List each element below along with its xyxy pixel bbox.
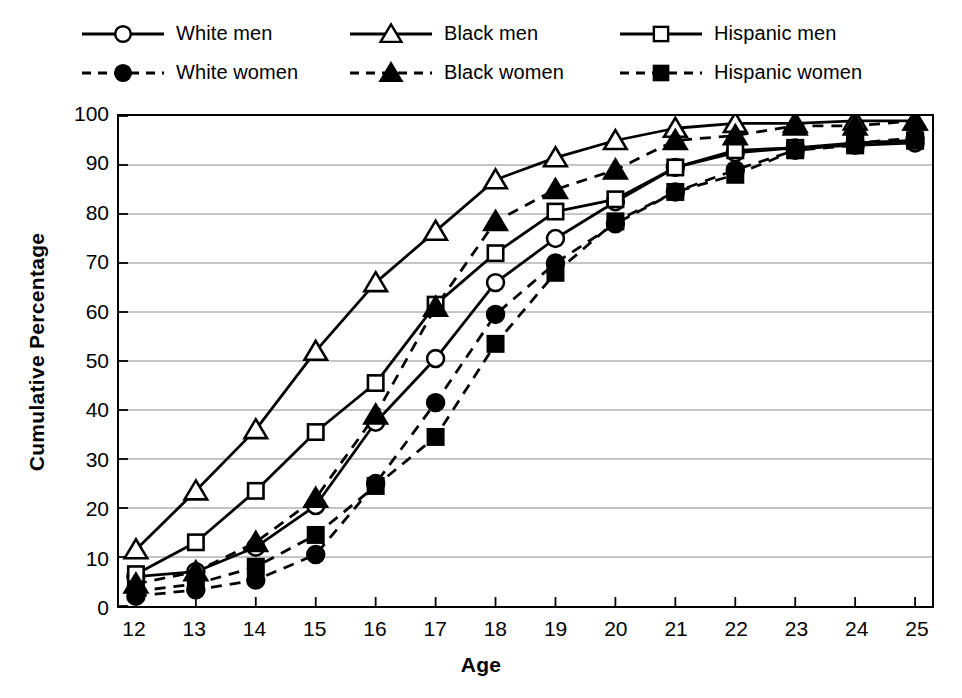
y-axis-tick-label: 20 <box>49 498 109 519</box>
data-point[interactable] <box>427 394 444 411</box>
x-axis-tick-label: 24 <box>837 618 877 639</box>
y-axis-tick-labels: 0102030405060708090100 <box>45 114 109 608</box>
x-axis-tick-label: 17 <box>415 618 455 639</box>
y-axis-tick-label: 30 <box>49 449 109 470</box>
data-point[interactable] <box>847 138 862 153</box>
legend-marker-square-open-icon <box>618 21 704 47</box>
data-point[interactable] <box>427 350 444 367</box>
data-point[interactable] <box>488 246 503 261</box>
data-point[interactable] <box>428 429 443 444</box>
data-point[interactable] <box>608 214 623 229</box>
data-point[interactable] <box>487 274 504 291</box>
x-axis-title: Age <box>0 653 962 677</box>
data-point[interactable] <box>548 204 563 219</box>
data-point[interactable] <box>245 419 268 438</box>
legend-marker-circle-filled-icon <box>80 60 166 86</box>
legend-item[interactable]: White men <box>80 14 348 53</box>
data-point[interactable] <box>487 306 504 323</box>
legend-label: Hispanic women <box>704 61 862 84</box>
plot-canvas <box>119 116 932 606</box>
legend-item[interactable]: Black men <box>348 14 618 53</box>
y-axis-title: Cumulative Percentage <box>25 152 49 552</box>
y-axis-tick-label: 60 <box>49 301 109 322</box>
series-markers <box>128 133 923 599</box>
y-axis-tick-label: 0 <box>49 597 109 618</box>
legend-label: Black women <box>434 61 564 84</box>
data-point[interactable] <box>308 424 323 439</box>
legend-item[interactable]: Hispanic men <box>618 14 898 53</box>
legend-row: White womenBlack womenHispanic women <box>80 53 940 92</box>
data-point[interactable] <box>248 559 263 574</box>
data-point[interactable] <box>308 527 323 542</box>
series-line <box>136 121 915 584</box>
legend-label: Hispanic men <box>704 22 836 45</box>
x-axis-tick-label: 13 <box>174 618 214 639</box>
data-point[interactable] <box>907 133 922 148</box>
legend-item[interactable]: Black women <box>348 53 618 92</box>
x-axis-tick-label: 20 <box>596 618 636 639</box>
x-axis-tick-label: 22 <box>716 618 756 639</box>
data-point[interactable] <box>307 546 324 563</box>
legend-label: White women <box>166 61 298 84</box>
data-point[interactable] <box>248 483 263 498</box>
x-axis-tick-label: 18 <box>475 618 515 639</box>
data-point[interactable] <box>544 179 567 198</box>
y-axis-tick-label: 40 <box>49 399 109 420</box>
data-point[interactable] <box>484 169 507 188</box>
series-markers <box>127 130 923 605</box>
data-point[interactable] <box>488 336 503 351</box>
chart-figure: White menBlack menHispanic menWhite wome… <box>0 0 962 698</box>
legend-marker-triangle-filled-icon <box>348 60 434 86</box>
y-axis-tick-label: 100 <box>49 103 109 124</box>
series-line <box>136 141 915 592</box>
plot-area <box>117 114 934 608</box>
series-line <box>136 143 915 577</box>
data-point[interactable] <box>304 488 327 507</box>
data-point[interactable] <box>188 535 203 550</box>
data-point[interactable] <box>548 265 563 280</box>
x-axis-tick-labels: 1213141516171819202122232425 <box>117 618 934 646</box>
data-point[interactable] <box>368 375 383 390</box>
legend-label: Black men <box>434 22 538 45</box>
y-axis-tick-label: 90 <box>49 152 109 173</box>
y-axis-tick-label: 10 <box>49 548 109 569</box>
x-axis-tick-label: 23 <box>777 618 817 639</box>
legend-row: White menBlack menHispanic men <box>80 14 940 53</box>
data-point[interactable] <box>128 584 143 599</box>
data-point[interactable] <box>608 192 623 207</box>
x-axis-tick-label: 12 <box>114 618 154 639</box>
x-axis-tick-label: 16 <box>355 618 395 639</box>
legend-item[interactable]: White women <box>80 53 348 92</box>
series-line <box>136 138 915 596</box>
y-axis-tick-label: 80 <box>49 202 109 223</box>
legend-marker-triangle-open-icon <box>348 21 434 47</box>
legend-label: White men <box>166 22 273 45</box>
data-point[interactable] <box>188 576 203 591</box>
data-point[interactable] <box>728 167 743 182</box>
legend-marker-circle-open-icon <box>80 21 166 47</box>
x-axis-tick-label: 21 <box>656 618 696 639</box>
data-point[interactable] <box>668 160 683 175</box>
x-axis-tick-label: 14 <box>234 618 274 639</box>
y-axis-tick-label: 70 <box>49 251 109 272</box>
data-point[interactable] <box>547 230 564 247</box>
x-axis-tick-label: 19 <box>536 618 576 639</box>
series-markers <box>125 116 927 558</box>
data-point[interactable] <box>787 143 802 158</box>
data-point[interactable] <box>904 116 927 129</box>
legend-item[interactable]: Hispanic women <box>618 53 898 92</box>
x-axis-tick-label: 15 <box>295 618 335 639</box>
series-markers <box>125 116 927 592</box>
legend-marker-square-filled-icon <box>618 60 704 86</box>
x-axis-tick-label: 25 <box>897 618 937 639</box>
data-point[interactable] <box>604 159 627 178</box>
series-markers <box>127 135 923 586</box>
data-point[interactable] <box>668 184 683 199</box>
data-point[interactable] <box>368 478 383 493</box>
chart-legend: White menBlack menHispanic menWhite wome… <box>80 14 940 92</box>
series-markers <box>128 133 923 582</box>
y-axis-tick-label: 50 <box>49 350 109 371</box>
